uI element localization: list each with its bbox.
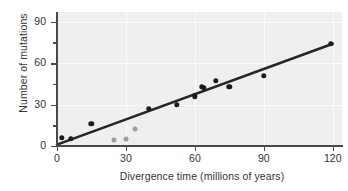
x-axis-tick-label: 0: [54, 152, 60, 164]
x-axis-tick: [264, 146, 265, 151]
y-axis-tick-label: 30: [34, 98, 46, 110]
x-axis-line: [56, 145, 343, 147]
data-point: [112, 138, 117, 143]
x-axis-tick: [195, 146, 196, 151]
y-axis-tick: [51, 22, 56, 23]
trendline: [57, 12, 342, 146]
y-axis-tick-label: 0: [40, 139, 46, 151]
y-axis-minor-tick: [53, 84, 57, 85]
y-axis-title: Number of mutations: [17, 0, 29, 133]
x-axis-title: Divergence time (millions of years): [56, 170, 348, 182]
x-axis-tick: [126, 146, 127, 151]
y-axis-tick: [51, 146, 56, 147]
y-axis-tick: [51, 105, 56, 106]
data-point: [123, 137, 128, 142]
scatter-chart-figure: 03060900306090120 Number of mutations Di…: [0, 0, 348, 191]
y-axis-tick-label: 90: [34, 15, 46, 27]
y-axis-line: [56, 12, 58, 146]
plot-area: [57, 12, 342, 146]
x-axis-tick-label: 120: [324, 152, 342, 164]
x-axis-tick-label: 30: [120, 152, 132, 164]
y-axis-minor-tick: [53, 125, 57, 126]
x-axis-tick-label: 90: [258, 152, 270, 164]
y-axis-minor-tick: [53, 42, 57, 43]
y-axis-tick: [51, 63, 56, 64]
x-axis-tick: [333, 146, 334, 151]
y-axis-tick-label: 60: [34, 56, 46, 68]
x-axis-tick-label: 60: [189, 152, 201, 164]
data-point: [133, 127, 138, 132]
x-axis-tick: [57, 146, 58, 151]
